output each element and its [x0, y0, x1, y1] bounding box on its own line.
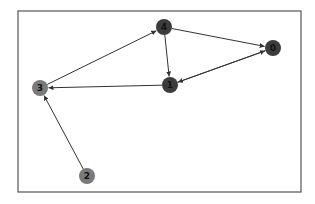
node-4: 4	[156, 19, 172, 35]
node-2: 2	[79, 168, 95, 184]
edge-4-to-1	[165, 35, 169, 77]
node-1: 1	[162, 77, 178, 93]
edge-1-to-0	[178, 51, 265, 82]
edge-2-to-3	[44, 95, 83, 168]
node-label: 1	[167, 80, 173, 90]
node-label: 2	[84, 171, 90, 181]
node-label: 3	[37, 83, 43, 93]
nodes-group: 01234	[32, 19, 281, 184]
node-label: 0	[270, 43, 276, 53]
node-3: 3	[32, 80, 48, 96]
edge-3-to-4	[47, 31, 156, 85]
node-0: 0	[265, 40, 281, 56]
edge-1-to-3	[48, 85, 162, 88]
edge-4-to-0	[172, 29, 265, 47]
graph-canvas: 01234	[0, 0, 315, 204]
edges-group	[44, 29, 265, 169]
plot-frame	[18, 11, 301, 192]
node-label: 4	[161, 22, 167, 32]
